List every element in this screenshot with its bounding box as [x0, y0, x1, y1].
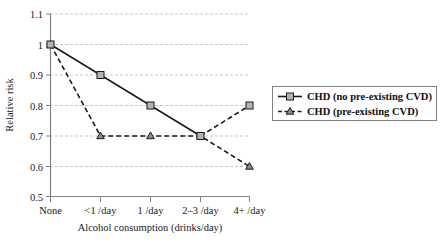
legend-label-no-pre-existing-cvd: CHD (no pre-existing CVD) [307, 91, 432, 103]
y-tick-label-0.5: 0.5 [30, 192, 43, 203]
y-tick-label-0.8: 0.8 [30, 101, 43, 112]
relative-risk-line-chart: 1.1 1 0.9 0.8 0.7 0.6 0.5 None <1 /day 1… [0, 0, 443, 246]
x-tick-label-none: None [39, 205, 62, 216]
x-axis-ticks [51, 197, 250, 203]
gridlines [50, 14, 250, 167]
x-tick-label-4plus: 4+ /day [234, 205, 267, 216]
chart-legend: CHD (no pre-existing CVD) CHD (pre-exist… [273, 87, 437, 121]
y-tick-label-0.7: 0.7 [30, 131, 43, 142]
y-axis-title: Relative risk [4, 78, 15, 132]
y-tick-label-1.1: 1.1 [30, 9, 43, 20]
legend-square-marker-icon [287, 93, 294, 100]
y-tick-label-1: 1 [38, 40, 43, 51]
chart-figure: 1.1 1 0.9 0.8 0.7 0.6 0.5 None <1 /day 1… [0, 0, 443, 246]
y-tick-label-0.6: 0.6 [30, 162, 43, 173]
x-tick-label-2to3: 2–3 /day [182, 205, 219, 216]
series-no-pre-existing-cvd [47, 41, 253, 140]
y-tick-label-0.9: 0.9 [30, 70, 43, 81]
series-no-pre-existing-cvd-markers [47, 41, 253, 140]
x-tick-label-1day: 1 /day [138, 205, 165, 216]
legend-label-pre-existing-cvd: CHD (pre-existing CVD) [307, 106, 419, 118]
series-no-cvd-tail-segment [201, 106, 250, 137]
x-axis-title: Alcohol consumption (drinks/day) [78, 222, 223, 234]
x-tick-label-lt1: <1 /day [85, 205, 118, 216]
